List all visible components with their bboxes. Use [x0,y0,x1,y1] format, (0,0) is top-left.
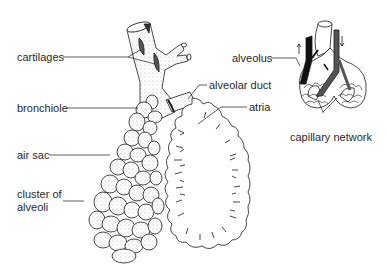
alveoli-cluster [89,95,164,263]
label-cartilages: cartilages [17,51,64,64]
alveolus-inset [297,21,366,113]
label-alveoli: alveoli [17,201,48,214]
label-alveolus: alveolus [232,52,272,65]
label-capillary-network: capillary network [290,131,372,144]
atria-cross-section [165,98,250,249]
label-bronchiole: bronchiole [17,102,68,115]
label-atria: atria [249,101,270,114]
label-alveolar-duct: alveolar duct [209,79,271,92]
label-cluster-of: cluster of [17,188,62,201]
label-air-sac: air sac [17,149,49,162]
